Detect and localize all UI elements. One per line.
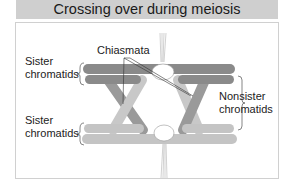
spindle-fibers-top	[160, 33, 166, 62]
crossing-over-diagram: Chiasmata Sister chromatids Sister chrom…	[0, 0, 293, 191]
label-sister-bottom-2: chromatids	[25, 127, 79, 139]
centromere-bottom	[154, 125, 174, 141]
label-nonsister-1: Nonsister	[219, 90, 266, 102]
label-sister-top-2: chromatids	[25, 68, 79, 80]
spindle-fibers-bottom	[161, 143, 167, 178]
label-chiasmata: Chiasmata	[97, 44, 150, 56]
label-sister-bottom-1: Sister	[25, 114, 53, 126]
crossing-arms	[108, 80, 205, 130]
label-sister-top-1: Sister	[25, 55, 53, 67]
label-nonsister-2: chromatids	[219, 103, 273, 115]
